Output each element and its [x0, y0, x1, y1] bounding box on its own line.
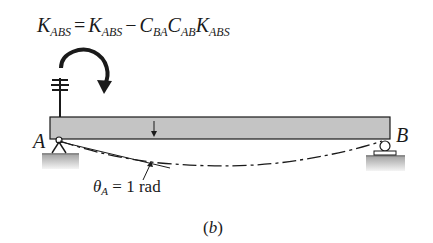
beam [50, 117, 390, 139]
figure-caption: (b) [203, 218, 223, 238]
rotation-value: = 1 rad [112, 177, 160, 196]
caption-letter: b [209, 218, 218, 237]
clamp-symbol-icon [51, 78, 69, 117]
theta-subscript: A [101, 185, 108, 197]
label-a: A [33, 130, 45, 153]
moment-arrow-icon [61, 50, 112, 94]
rotation-label: θA = 1 rad [93, 177, 161, 197]
label-b: B [396, 124, 408, 147]
beam-diagram [0, 0, 433, 243]
caption-close-paren: ) [217, 218, 223, 237]
